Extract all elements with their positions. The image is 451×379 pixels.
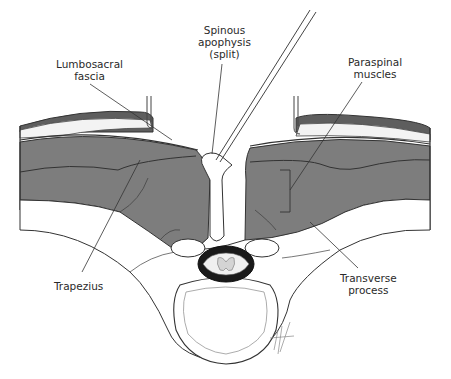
- label-trapezius: Trapezius: [54, 280, 103, 292]
- left-facet: [171, 239, 205, 257]
- leader-spinous: [212, 64, 222, 154]
- label-paraspinal-muscles: Paraspinal muscles: [348, 56, 402, 80]
- label-lumbosacral-fascia: Lumbosacral fascia: [56, 58, 123, 82]
- anatomy-figure: Spinous apophysis (split) Lumbosacral fa…: [0, 0, 451, 379]
- label-transverse-process: Transverse process: [340, 272, 397, 296]
- label-spinous-apophysis: Spinous apophysis (split): [198, 24, 251, 60]
